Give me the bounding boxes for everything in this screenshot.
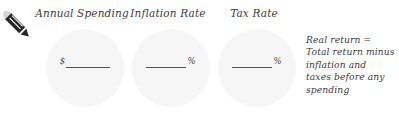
field-blank-annual-spending[interactable]: $ — [46, 52, 124, 68]
real-return-note: Real return = Total return minus inflati… — [306, 34, 398, 96]
note-line: Total return minus — [306, 46, 398, 58]
field-circle-annual-spending — [46, 29, 124, 107]
field-group-inflation-rate: Inflation Rate % — [120, 6, 216, 114]
retirement-worksheet-panel: { "icon": { "name": "pencil-icon", "body… — [0, 0, 399, 117]
percent-symbol-tax-rate: % — [273, 57, 281, 66]
write-in-line-inflation-rate[interactable] — [146, 67, 186, 68]
write-in-line-tax-rate[interactable] — [232, 67, 272, 68]
write-in-line-annual-spending[interactable] — [66, 67, 110, 68]
field-label-tax-rate: Tax Rate — [206, 6, 302, 20]
note-line: Real return = — [306, 34, 398, 46]
field-circle-tax-rate — [218, 29, 296, 107]
note-line: spending — [306, 84, 398, 96]
field-blank-inflation-rate[interactable]: % — [132, 52, 210, 68]
field-label-annual-spending: Annual Spending — [34, 6, 130, 20]
field-circle-inflation-rate — [132, 29, 210, 107]
field-label-inflation-rate: Inflation Rate — [120, 6, 216, 20]
pencil-icon — [1, 9, 31, 39]
currency-symbol-annual-spending: $ — [60, 57, 65, 66]
field-group-tax-rate: Tax Rate % — [206, 6, 302, 114]
field-group-annual-spending: Annual Spending $ — [34, 6, 130, 114]
percent-symbol-inflation-rate: % — [187, 57, 195, 66]
field-blank-tax-rate[interactable]: % — [218, 52, 296, 68]
note-line: taxes before any — [306, 71, 398, 83]
note-line: inflation and — [306, 59, 398, 71]
